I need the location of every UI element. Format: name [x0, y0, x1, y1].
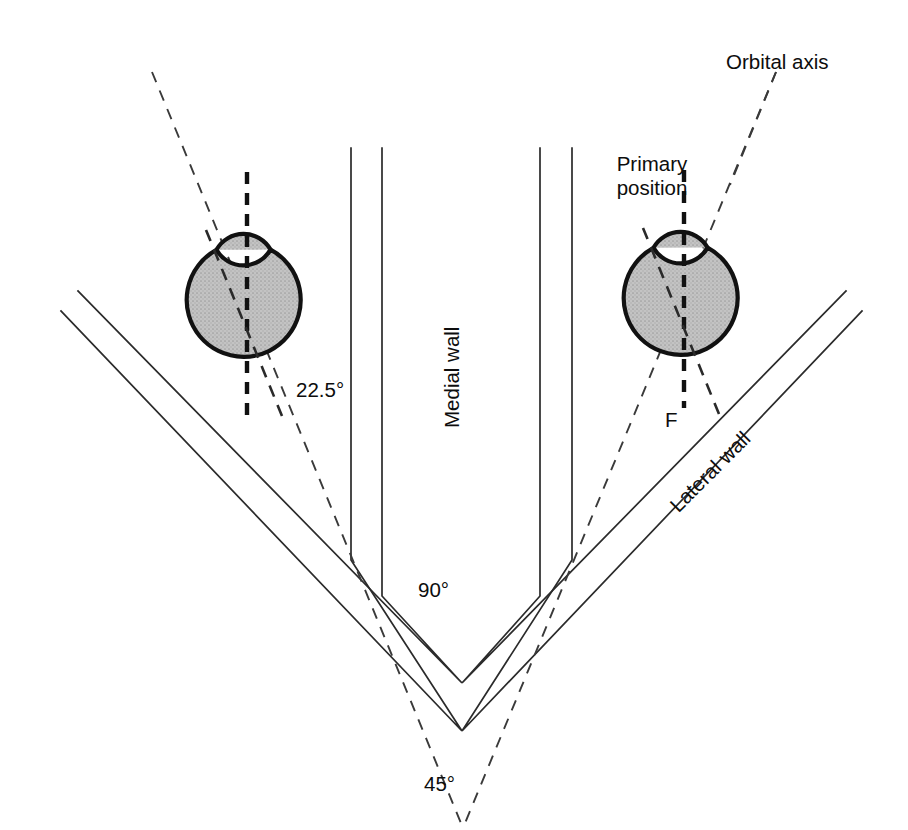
left-globe-cornea: [217, 234, 271, 250]
right-globe-cornea: [654, 232, 708, 248]
right-globe-body: [624, 248, 738, 355]
angle-45-label: 45°: [424, 772, 455, 796]
left-eye-globe: [187, 234, 301, 357]
right-orbit-outer-wall: [462, 148, 862, 731]
orbital-axis-diagram: Orbital axis Primary position Medial wal…: [0, 0, 908, 830]
left-orbit-inner-wall: [78, 148, 462, 683]
right-orbit-inner-wall: [462, 148, 846, 683]
angle-22-5-label: 22.5°: [296, 378, 344, 402]
orbital-axis-leader: [730, 72, 776, 185]
left-orbital-axis-line: [152, 72, 463, 828]
orbital-axis-label: Orbital axis: [726, 50, 829, 74]
angle-90-label: 90°: [418, 578, 449, 602]
left-orbit-outer-wall: [61, 148, 462, 731]
medial-wall-label: Medial wall: [440, 327, 464, 428]
left-globe-body: [187, 250, 301, 357]
primary-position-label: Primary position: [592, 152, 712, 200]
right-eye-globe: [624, 232, 738, 355]
fovea-label: F: [665, 408, 678, 432]
